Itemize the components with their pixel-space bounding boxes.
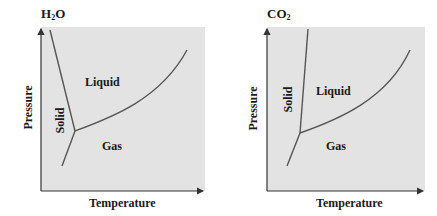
co2-region-liquid: Liquid [316,84,351,99]
h2o-region-solid: Solid [53,104,68,138]
h2o-title: H2O [41,6,65,22]
h2o-region-liquid: Liquid [85,75,120,90]
co2-region-solid: Solid [281,83,296,117]
co2-phase-diagram: CO2 Pressure Temperature Liquid Solid Ga… [217,0,435,216]
h2o-phase-diagram: H2O Pressure Temperature Liquid Solid Ga… [0,0,218,216]
co2-x-axis-label: Temperature [316,196,383,211]
co2-region-gas: Gas [326,139,346,154]
h2o-region-gas: Gas [102,139,122,154]
co2-y-axis-label: Pressure [246,82,261,136]
h2o-x-axis-label: Temperature [89,196,156,211]
h2o-y-axis-label: Pressure [21,81,36,135]
co2-title: CO2 [267,6,291,22]
